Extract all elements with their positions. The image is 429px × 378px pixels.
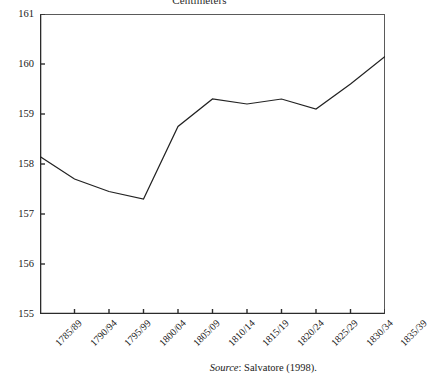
x-tick-label: 1820/24 bbox=[295, 318, 325, 348]
x-tick-label-text: 1820/24 bbox=[295, 318, 325, 348]
x-tick-label-text: 1800/04 bbox=[157, 318, 187, 348]
x-tick-label-text: 1805/09 bbox=[192, 318, 222, 348]
x-tick-label: 1795/99 bbox=[123, 318, 153, 348]
x-tick-label: 1835/39 bbox=[399, 318, 429, 348]
source-note: Source: Salvatore (1998). bbox=[0, 362, 399, 374]
x-tick-label: 1825/29 bbox=[330, 318, 360, 348]
x-tick-label: 1790/94 bbox=[88, 318, 118, 348]
x-tick-label-text: 1830/34 bbox=[364, 318, 394, 348]
x-tick-label-text: 1790/94 bbox=[88, 318, 118, 348]
x-tick-label: 1800/04 bbox=[157, 318, 187, 348]
x-tick-label-text: 1825/29 bbox=[330, 318, 360, 348]
source-separator: : bbox=[239, 362, 242, 373]
x-tick-label: 1830/34 bbox=[364, 318, 394, 348]
x-tick-label-text: 1795/99 bbox=[123, 318, 153, 348]
x-tick-label: 1785/89 bbox=[54, 318, 84, 348]
source-label: Source bbox=[210, 362, 239, 373]
x-tick-label-text: 1835/39 bbox=[399, 318, 429, 348]
x-tick-label: 1805/09 bbox=[192, 318, 222, 348]
source-text: Salvatore (1998). bbox=[244, 362, 317, 373]
x-tick-label-text: 1785/89 bbox=[54, 318, 84, 348]
x-tick-label-text: 1815/19 bbox=[261, 318, 291, 348]
x-tick-label: 1815/19 bbox=[261, 318, 291, 348]
x-tick-label-text: 1810/14 bbox=[226, 318, 256, 348]
x-tick-label: 1810/14 bbox=[226, 318, 256, 348]
